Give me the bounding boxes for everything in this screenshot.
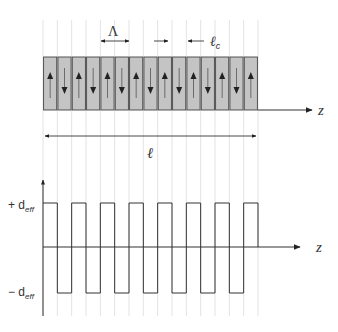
z-axis-top-label: z [317, 102, 324, 118]
crystal-length-label: ℓ [147, 145, 153, 161]
minus-d-eff-label: − deff [8, 285, 35, 301]
qpm-diagram: z Λ ℓc ℓ z + deff − deff [0, 0, 338, 332]
d-eff-square-wave [43, 203, 258, 293]
coherence-length-label: ℓc [210, 34, 221, 51]
domain-block [44, 57, 258, 110]
plus-d-eff-label: + deff [8, 198, 35, 214]
period-label: Λ [108, 24, 119, 39]
z-axis-bottom-label: z [315, 239, 322, 255]
